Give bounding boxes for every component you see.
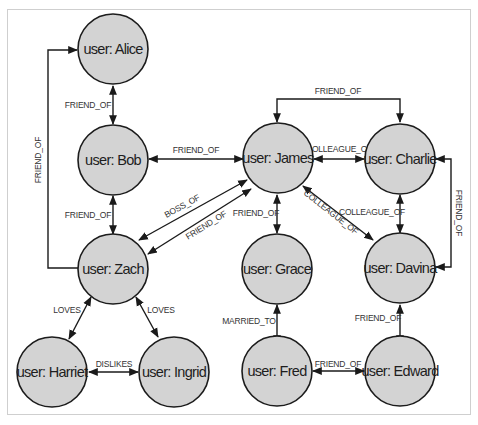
node-label: user: Ingrid <box>142 364 207 380</box>
edge-label: COLLEAGUE_OF <box>339 207 405 217</box>
edge-label: FRIEND_OF <box>65 210 111 220</box>
node-bob[interactable]: user: Bob <box>78 125 148 195</box>
edge-james-charlie-friend: FRIEND_OF <box>277 86 400 122</box>
node-label: user: Zach <box>82 261 144 277</box>
node-label: user: Fred <box>247 363 307 379</box>
node-label: user: James <box>242 150 314 166</box>
edge-label: FRIEND_OF <box>233 208 279 218</box>
node-label: user: Harriet <box>17 364 88 380</box>
edge-zach-alice: FRIEND_OF <box>33 50 78 268</box>
edge-alice-bob: FRIEND_OF <box>65 86 113 124</box>
node-zach[interactable]: user: Zach <box>78 234 148 304</box>
edge-label: MARRIED_TO <box>222 316 276 326</box>
edge-label: DISLIKES <box>96 359 133 369</box>
edge-label: FRIEND_OF <box>173 145 219 155</box>
graph-canvas: FRIEND_OF FRIEND_OF FRIEND_OF FRIEND_OF … <box>0 0 478 425</box>
node-james[interactable]: user: James <box>242 123 314 193</box>
node-davina[interactable]: user: Davina <box>364 233 439 303</box>
edge-label: FRIEND_OF <box>315 359 361 369</box>
node-charlie[interactable]: user: Charlie <box>363 124 437 194</box>
edge-label: FRIEND_OF <box>355 313 401 323</box>
edge-label: FRIEND_OF <box>184 208 229 241</box>
node-fred[interactable]: user: Fred <box>242 336 312 406</box>
node-label: user: Bob <box>85 152 141 168</box>
edge-label: FRIEND_OF <box>65 100 111 110</box>
edge-zach-ingrid: LOVES <box>136 297 175 337</box>
edge-charlie-davina-friend: FRIEND_OF <box>436 159 464 267</box>
node-label: user: Edward <box>361 363 439 379</box>
edge-zach-harriet: LOVES <box>53 297 91 339</box>
edge-bob-zach: FRIEND_OF <box>65 196 113 234</box>
node-label: user: Charlie <box>363 151 437 167</box>
edge-label: LOVES <box>147 305 175 315</box>
edge-label: FRIEND_OF <box>315 86 361 96</box>
edge-james-charlie-colleague: COLLEAGUE_OF <box>306 144 372 159</box>
edge-james-grace: FRIEND_OF <box>233 195 279 233</box>
edge-harriet-ingrid: DISLIKES <box>89 359 138 372</box>
edge-bob-james: FRIEND_OF <box>149 145 243 159</box>
node-edward[interactable]: user: Edward <box>361 336 439 406</box>
edge-fred-edward: FRIEND_OF <box>313 359 364 371</box>
node-grace[interactable]: user: Grace <box>242 234 312 304</box>
node-alice[interactable]: user: Alice <box>78 14 148 84</box>
node-label: user: Alice <box>83 41 143 57</box>
node-harriet[interactable]: user: Harriet <box>17 337 88 407</box>
node-label: user: Grace <box>243 261 312 277</box>
edge-label: LOVES <box>53 305 81 315</box>
edge-label: FRIEND_OF <box>33 137 43 183</box>
edge-label: FRIEND_OF <box>454 190 464 236</box>
node-label: user: Davina <box>364 260 439 276</box>
node-ingrid[interactable]: user: Ingrid <box>139 337 209 407</box>
edge-label: COLLEAGUE_OF <box>306 144 372 154</box>
